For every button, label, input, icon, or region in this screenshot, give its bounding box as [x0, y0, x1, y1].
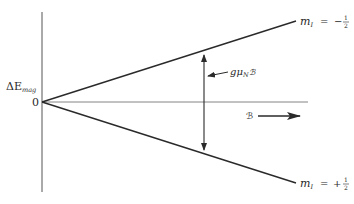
- svg-text:2: 2: [344, 184, 348, 191]
- svg-text:+: +: [333, 178, 341, 189]
- gap-label: gμNℬ: [230, 66, 256, 79]
- svg-text:=: =: [320, 16, 328, 27]
- y-axis-label: ΔEmag: [6, 80, 36, 94]
- svg-text:2: 2: [344, 22, 348, 29]
- lower-level-label: mI = + 1 2: [300, 176, 349, 191]
- lower-level-line: [42, 102, 296, 183]
- svg-text:mI: mI: [300, 15, 313, 29]
- origin-label: 0: [32, 96, 39, 109]
- svg-text:=: =: [320, 178, 328, 189]
- svg-text:1: 1: [344, 176, 348, 183]
- upper-level-line: [42, 21, 296, 102]
- svg-text:mI: mI: [300, 177, 313, 191]
- upper-level-label: mI = − 1 2: [300, 14, 349, 29]
- svg-text:1: 1: [344, 14, 348, 21]
- field-label: ℬ: [246, 111, 253, 121]
- zeeman-diagram: ΔEmag 0 gμNℬ ℬ mI = − 1 2 mI = + 1 2: [0, 0, 354, 204]
- svg-text:−: −: [334, 16, 342, 27]
- gap-pointer-arrow: [208, 72, 228, 76]
